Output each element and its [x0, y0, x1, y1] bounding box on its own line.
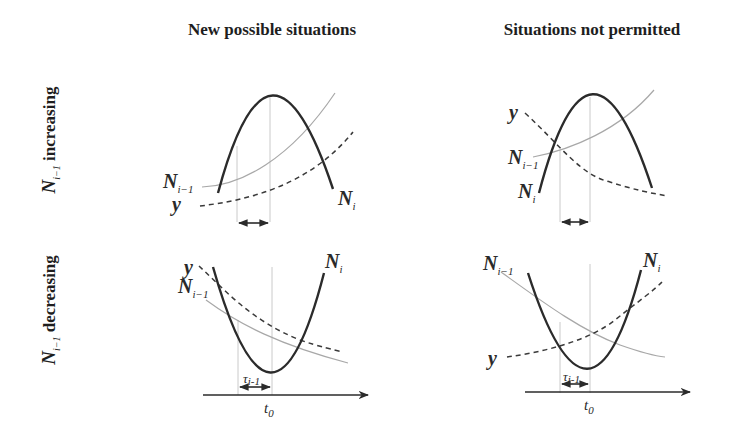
label-t0: t0 [264, 400, 274, 419]
panel-top-left: Ni−1 y Ni [162, 93, 356, 223]
label-y: y [170, 193, 181, 216]
label-t0: t0 [584, 397, 594, 416]
label-N-i-minus-1: Ni−1 [177, 275, 208, 300]
label-tau: τi-1 [563, 369, 580, 385]
curve-N-i-minus-1 [501, 272, 665, 357]
label-tau: τi-1 [243, 371, 260, 387]
diagram-canvas: Ni−1 y Ni y Ni−1 Ni τi-1 t0 y Ni−1 Ni [0, 0, 729, 422]
label-N-i: Ni [324, 250, 343, 275]
panel-bottom-left: τi-1 t0 y Ni−1 Ni [177, 250, 368, 419]
label-N-i: Ni [337, 187, 356, 212]
curve-N-i [218, 95, 333, 193]
label-N-i-minus-1: Ni−1 [162, 170, 193, 195]
panel-top-right: y Ni−1 Ni [507, 90, 668, 222]
curve-N-i [213, 267, 324, 373]
label-y: y [486, 347, 497, 370]
label-N-i: Ni [517, 180, 536, 205]
curve-N-i [528, 270, 641, 369]
label-N-i: Ni [642, 249, 661, 274]
panel-bottom-right: τi-1 t0 Ni−1 y Ni [482, 249, 690, 416]
label-N-i-minus-1: Ni−1 [507, 146, 538, 171]
label-y: y [507, 101, 518, 124]
label-N-i-minus-1: Ni−1 [482, 252, 513, 277]
curve-y [200, 132, 353, 206]
